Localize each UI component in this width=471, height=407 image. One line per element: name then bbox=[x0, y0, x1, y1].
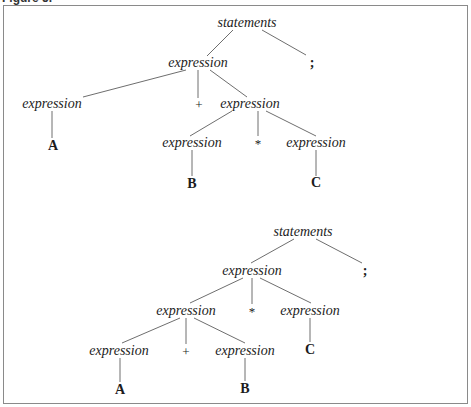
node-expression-left: expression bbox=[22, 97, 81, 111]
node-A: A bbox=[48, 139, 58, 153]
node-expression-right-right: expression bbox=[286, 136, 345, 150]
node-plus: + bbox=[182, 345, 189, 358]
node-expression-right: expression bbox=[280, 304, 339, 318]
node-expression-right: expression bbox=[220, 97, 279, 111]
node-expression-left-right: expression bbox=[215, 344, 274, 358]
node-star: * bbox=[255, 137, 262, 150]
node-expression-left-left: expression bbox=[89, 344, 148, 358]
node-statements: statements bbox=[273, 225, 332, 239]
node-expression-right-left: expression bbox=[162, 136, 221, 150]
node-C: C bbox=[311, 176, 321, 190]
node-semicolon: ; bbox=[363, 264, 368, 278]
node-B: B bbox=[240, 382, 249, 396]
node-star: * bbox=[249, 305, 256, 318]
node-plus: + bbox=[195, 98, 202, 111]
node-B: B bbox=[187, 177, 196, 191]
node-A: A bbox=[115, 383, 125, 397]
node-C: C bbox=[305, 343, 315, 357]
node-expression: expression bbox=[168, 56, 227, 70]
node-expression: expression bbox=[222, 264, 281, 278]
node-semicolon: ; bbox=[310, 56, 315, 70]
node-statements: statements bbox=[217, 16, 276, 30]
node-expression-left: expression bbox=[156, 304, 215, 318]
